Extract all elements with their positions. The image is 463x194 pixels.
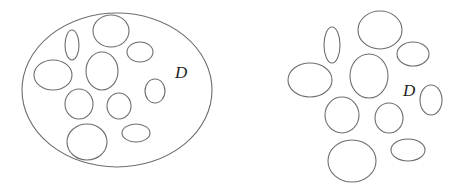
hole-ellipse <box>397 42 429 66</box>
hole-ellipse <box>324 27 340 63</box>
hole-ellipse <box>350 54 388 98</box>
hole-ellipse <box>127 42 153 62</box>
hole-ellipse <box>65 89 93 119</box>
hole-ellipse <box>67 124 107 160</box>
hole-ellipse <box>86 52 118 90</box>
diagram-canvas: D D <box>0 0 463 194</box>
domain-label: D <box>174 63 188 82</box>
hole-ellipse <box>288 63 332 97</box>
right-panel-unbounded-domain: D <box>288 11 442 182</box>
hole-ellipse <box>358 11 402 49</box>
hole-ellipse <box>391 139 425 161</box>
hole-ellipse <box>122 124 150 142</box>
hole-ellipse <box>145 79 165 103</box>
hole-ellipse <box>375 103 403 133</box>
hole-ellipse <box>325 97 359 133</box>
hole-ellipse <box>107 93 131 119</box>
hole-ellipse <box>65 30 79 60</box>
hole-ellipse <box>34 60 72 90</box>
hole-ellipse <box>420 85 442 115</box>
hole-ellipse <box>328 140 376 182</box>
left-panel-bounded-domain: D <box>22 13 212 167</box>
hole-ellipse <box>93 15 129 47</box>
domain-label: D <box>402 81 416 100</box>
